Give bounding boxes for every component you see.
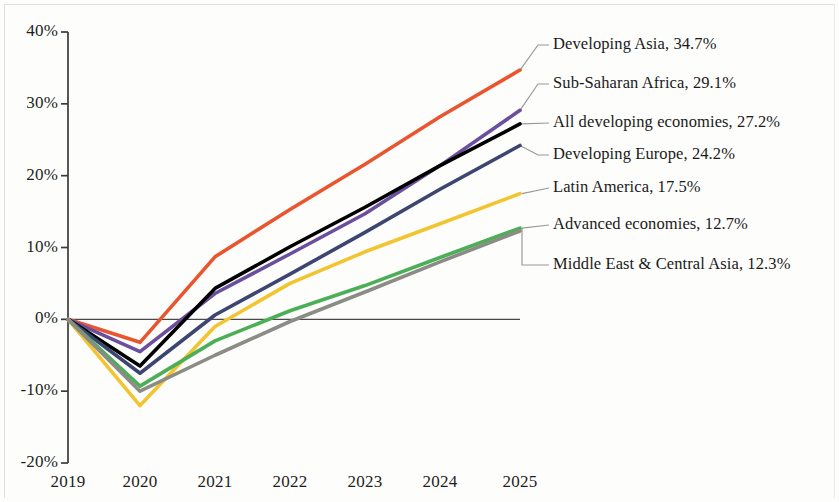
series-end-label-5: Advanced economies, 12.7% — [553, 214, 748, 234]
chart-page: 40%30%20%10%0%-10%-20% 20192020202120222… — [0, 0, 839, 502]
x-tick-label-6: 2025 — [483, 472, 557, 492]
x-tick-label-4: 2023 — [328, 472, 402, 492]
series-end-label-4: Latin America, 17.5% — [553, 177, 701, 197]
series-end-label-1: Sub-Saharan Africa, 29.1% — [553, 73, 736, 93]
series-end-label-0: Developing Asia, 34.7% — [553, 34, 717, 54]
series-end-label-3: Developing Europe, 24.2% — [553, 144, 735, 164]
x-tick-label-3: 2022 — [253, 472, 327, 492]
series-end-label-6: Middle East & Central Asia, 12.3% — [553, 254, 790, 274]
y-tick-label-5: -10% — [0, 380, 58, 400]
y-tick-label-1: 30% — [0, 93, 58, 113]
y-tick-label-4: 0% — [0, 308, 58, 328]
series-lines — [68, 70, 520, 405]
series-line-1 — [68, 110, 520, 351]
x-tick-label-1: 2020 — [103, 472, 177, 492]
leader-developing-europe — [520, 145, 549, 155]
y-tick-label-2: 20% — [0, 165, 58, 185]
series-end-label-2: All developing economies, 27.2% — [553, 112, 780, 132]
leader-middle-east-central-asia — [522, 228, 549, 265]
x-tick-label-5: 2024 — [403, 472, 477, 492]
series-line-3 — [68, 146, 520, 374]
y-tick-label-6: -20% — [0, 452, 58, 472]
y-tick-label-3: 10% — [0, 237, 58, 257]
leader-all-developing — [522, 123, 549, 124]
leader-developing-asia — [520, 45, 549, 70]
leader-latin-america — [522, 188, 549, 194]
x-tick-label-2: 2021 — [178, 472, 252, 492]
series-line-0 — [68, 70, 520, 342]
leader-advanced-economies — [522, 225, 549, 228]
axis-group — [61, 32, 68, 463]
leader-sub-saharan-africa — [520, 84, 549, 110]
x-tick-label-0: 2019 — [31, 472, 105, 492]
series-line-2 — [68, 124, 520, 366]
series-line-4 — [68, 194, 520, 406]
leader-lines — [520, 45, 549, 265]
y-tick-label-0: 40% — [0, 21, 58, 41]
